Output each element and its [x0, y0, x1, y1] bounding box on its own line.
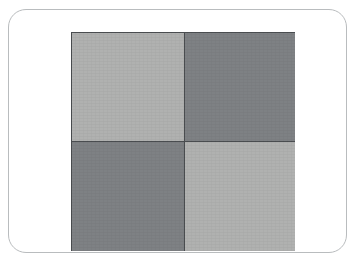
quadrant-bottom-left — [72, 142, 184, 251]
quadrant-top-right — [185, 33, 295, 141]
quadrant-bottom-right — [185, 142, 295, 251]
image-canvas — [0, 0, 357, 263]
checkerboard-figure — [71, 32, 295, 251]
rounded-card-frame — [8, 9, 347, 253]
quadrant-top-left — [72, 33, 184, 141]
